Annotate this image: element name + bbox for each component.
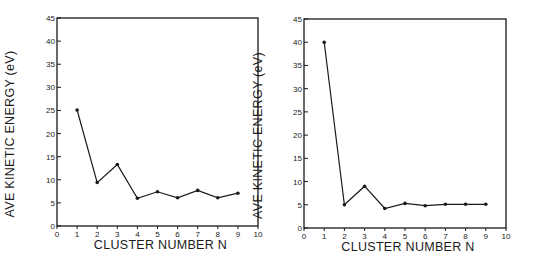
y-tick-label: 35: [293, 61, 302, 70]
data-series: [75, 108, 239, 200]
y-tick-label: 25: [293, 108, 302, 117]
chart-right: 051015202530354045012345678910CLUSTER NU…: [251, 15, 511, 254]
data-point: [343, 203, 347, 207]
data-point: [116, 163, 120, 167]
x-tick-label: 9: [236, 230, 241, 239]
y-tick-label: 15: [293, 154, 302, 163]
data-series: [322, 40, 487, 210]
data-point: [464, 203, 468, 207]
series-line: [324, 42, 486, 208]
data-point: [383, 207, 387, 211]
y-axis: 051015202530354045: [46, 14, 61, 231]
y-tick-label: 20: [46, 130, 55, 139]
data-point: [75, 108, 79, 112]
y-tick-label: 30: [46, 83, 55, 92]
y-tick-label: 5: [51, 199, 56, 208]
x-tick-label: 0: [302, 232, 307, 241]
data-point: [136, 196, 140, 200]
data-point: [176, 196, 180, 200]
y-tick-label: 40: [46, 37, 55, 46]
data-point: [484, 203, 488, 207]
data-point: [216, 196, 220, 200]
x-tick-label: 0: [55, 230, 60, 239]
y-tick-label: 20: [293, 131, 302, 140]
x-tick-label: 10: [254, 230, 263, 239]
chart-left: 051015202530354045012345678910CLUSTER NU…: [3, 14, 263, 252]
data-point: [236, 191, 240, 195]
x-axis-title: CLUSTER NUMBER N: [341, 240, 474, 254]
data-point: [423, 204, 427, 208]
x-tick-label: 1: [75, 230, 80, 239]
plot-frame: [57, 18, 258, 226]
y-tick-label: 35: [46, 60, 55, 69]
data-point: [196, 189, 200, 193]
data-point: [403, 202, 407, 206]
x-tick-label: 1: [322, 232, 327, 241]
data-point: [363, 184, 367, 188]
x-axis-title: CLUSTER NUMBER N: [94, 238, 227, 252]
y-axis: 051015202530354045: [293, 15, 308, 233]
y-tick-label: 5: [298, 201, 303, 210]
y-tick-label: 40: [293, 38, 302, 47]
y-tick-label: 15: [46, 153, 55, 162]
data-point: [95, 181, 99, 185]
data-point: [444, 203, 448, 207]
x-tick-label: 9: [484, 232, 489, 241]
data-point: [322, 40, 326, 44]
y-tick-label: 10: [293, 178, 302, 187]
x-tick-label: 10: [502, 232, 511, 241]
y-tick-label: 45: [293, 15, 302, 24]
y-tick-label: 25: [46, 106, 55, 115]
y-tick-label: 45: [46, 14, 55, 23]
y-axis-title: AVE KINETIC ENERGY (eV): [251, 52, 265, 219]
y-axis-title: AVE KINETIC ENERGY (eV): [3, 51, 17, 218]
figure: 051015202530354045012345678910CLUSTER NU…: [0, 0, 535, 265]
y-tick-label: 10: [46, 176, 55, 185]
data-point: [156, 190, 160, 194]
y-tick-label: 30: [293, 85, 302, 94]
series-line: [77, 110, 238, 198]
